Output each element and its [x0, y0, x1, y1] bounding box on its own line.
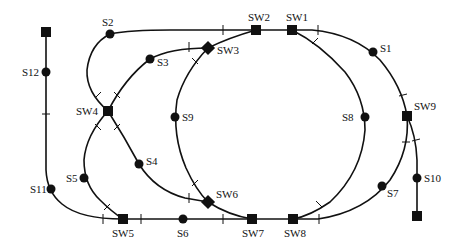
- switch-sw1[interactable]: SW1: [286, 11, 308, 35]
- switch-sw9[interactable]: SW9: [402, 100, 437, 121]
- switch-label: SW9: [414, 100, 437, 112]
- switch-label: SW4: [76, 105, 99, 117]
- switch-icon: [118, 214, 128, 224]
- signal-label: S1: [380, 42, 392, 54]
- signal-s3[interactable]: S3: [146, 55, 170, 69]
- switch-label: SW7: [242, 227, 265, 239]
- signal-label: S8: [342, 111, 354, 123]
- switch-sw8[interactable]: SW8: [284, 214, 307, 239]
- signal-label: S11: [30, 183, 47, 195]
- terminal-bottom-right-icon: [412, 211, 422, 221]
- signal-icon: [413, 174, 422, 183]
- signal-icon: [146, 55, 155, 64]
- switch-icon: [103, 106, 113, 116]
- signal-icon: [369, 48, 378, 57]
- signal-label: S9: [182, 111, 194, 123]
- switch-sw5[interactable]: SW5: [112, 214, 135, 239]
- signal-label: S4: [146, 155, 158, 167]
- signal-label: S10: [424, 172, 442, 184]
- switch-icon: [247, 214, 257, 224]
- switch-icon: [288, 214, 298, 224]
- railway-track-diagram: SW1 SW2 SW3 SW4 SW5 SW6 SW7 SW8: [0, 0, 463, 252]
- signal-icon: [179, 215, 188, 224]
- signal-icon: [171, 113, 180, 122]
- switch-label: SW5: [112, 227, 135, 239]
- track-center-loop: [176, 48, 252, 219]
- switch-label: SW3: [217, 44, 240, 56]
- signal-s5[interactable]: S5: [66, 172, 89, 184]
- switch-label: SW2: [248, 11, 270, 23]
- signal-label: S6: [177, 227, 189, 239]
- switch-sw6[interactable]: SW6: [201, 188, 239, 209]
- switch-label: SW8: [284, 227, 307, 239]
- signal-s7[interactable]: S7: [378, 182, 400, 200]
- switch-label: SW1: [286, 11, 308, 23]
- switch-icon: [287, 25, 297, 35]
- switch-icon: [251, 25, 261, 35]
- switch-sw3[interactable]: SW3: [201, 41, 240, 56]
- signal-s9[interactable]: S9: [171, 111, 195, 123]
- signal-s1[interactable]: S1: [369, 42, 392, 57]
- track-cross-loop: [108, 48, 208, 202]
- signal-icon: [80, 174, 89, 183]
- signal-icon: [378, 182, 387, 191]
- signal-s8[interactable]: S8: [342, 111, 370, 123]
- switch-icon: [402, 111, 412, 121]
- signal-s12[interactable]: S12: [22, 66, 51, 78]
- signal-label: S12: [22, 66, 39, 78]
- signal-icon: [106, 30, 115, 39]
- signal-s10[interactable]: S10: [413, 172, 442, 184]
- signal-icon: [42, 68, 51, 77]
- track-inner-right: [292, 30, 365, 219]
- track-top-main: [110, 30, 292, 34]
- signal-s2[interactable]: S2: [102, 16, 115, 39]
- terminal-top-left-icon: [41, 27, 51, 37]
- switch-sw4[interactable]: SW4: [76, 105, 113, 117]
- signal-label: S7: [387, 187, 399, 199]
- switch-label: SW6: [216, 188, 239, 200]
- track-left-spur: [46, 32, 123, 219]
- signal-label: S5: [66, 172, 78, 184]
- signal-label: S2: [102, 16, 114, 28]
- signal-s6[interactable]: S6: [177, 215, 189, 240]
- signal-s4[interactable]: S4: [135, 155, 159, 169]
- track-sw9-spur: [407, 116, 417, 216]
- signal-icon: [47, 185, 56, 194]
- switch-sw2[interactable]: SW2: [248, 11, 270, 35]
- signal-label: S3: [157, 56, 169, 68]
- signal-icon: [361, 113, 370, 122]
- signal-s11[interactable]: S11: [30, 183, 56, 195]
- signal-icon: [135, 160, 144, 169]
